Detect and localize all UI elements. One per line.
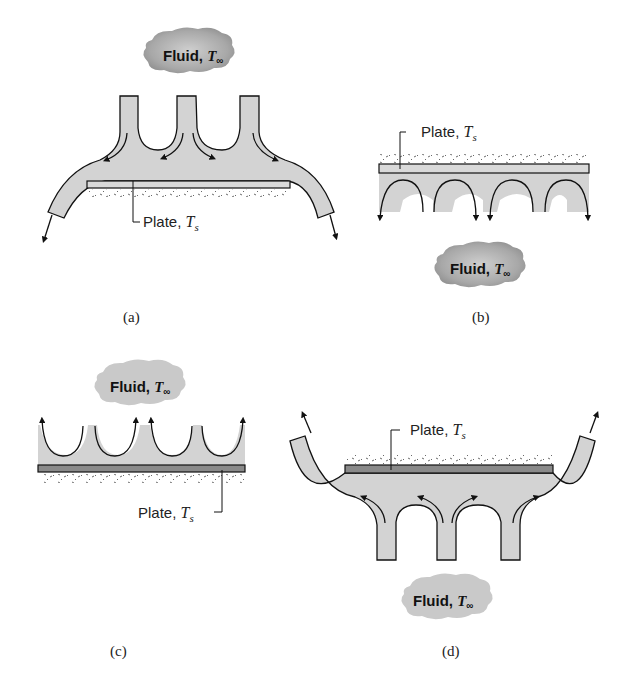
plate-d	[345, 465, 553, 473]
plate-a	[87, 181, 290, 188]
convection-diagram: Fluid, T∞ Plate, Ts (a) Plate, Ts	[0, 0, 629, 681]
plate-c	[38, 465, 245, 472]
svg-text:Fluid, T∞: Fluid, T∞	[163, 47, 223, 66]
svg-text:Fluid, T∞: Fluid, T∞	[110, 378, 170, 397]
panel-b: Plate, Ts Fluid, T∞ (b)	[379, 123, 589, 326]
svg-text:Plate, Ts: Plate, Ts	[410, 421, 466, 441]
flow-arrow	[303, 414, 311, 433]
fluid-flow-a	[48, 96, 334, 218]
insulation-d	[346, 455, 552, 464]
flow-arrow	[330, 215, 336, 237]
panel-d: Plate, Ts Fluid, T∞ (d)	[290, 414, 597, 660]
svg-text:Plate, Ts: Plate, Ts	[138, 504, 194, 524]
flow-arrow	[590, 414, 597, 433]
fluid-flow-c	[38, 425, 245, 465]
fluid-flow-d	[290, 436, 595, 560]
svg-text:Fluid, T∞: Fluid, T∞	[450, 260, 510, 279]
caption-c: (c)	[110, 643, 127, 660]
svg-text:Plate, Ts: Plate, Ts	[143, 213, 199, 233]
svg-text:Plate, Ts: Plate, Ts	[421, 123, 477, 143]
insulation-b	[380, 154, 588, 163]
fluid-cloud-c: Fluid, T∞	[94, 359, 185, 405]
fluid-cloud-a: Fluid, T∞	[143, 27, 234, 73]
svg-text:Fluid, T∞: Fluid, T∞	[413, 592, 473, 611]
insulation-a	[88, 189, 288, 197]
fluid-cloud-b: Fluid, T∞	[434, 241, 525, 287]
plate-b	[379, 164, 589, 173]
fluid-flow-b	[379, 173, 589, 212]
panel-c: Fluid, T∞ Plate, Ts (c)	[38, 359, 245, 660]
insulation-c	[40, 474, 244, 483]
fluid-cloud-d: Fluid, T∞	[401, 573, 492, 619]
caption-b: (b)	[472, 309, 490, 326]
panel-a: Fluid, T∞ Plate, Ts (a)	[44, 27, 336, 326]
caption-d: (d)	[442, 643, 460, 660]
caption-a: (a)	[123, 309, 140, 326]
flow-arrow	[44, 215, 52, 240]
